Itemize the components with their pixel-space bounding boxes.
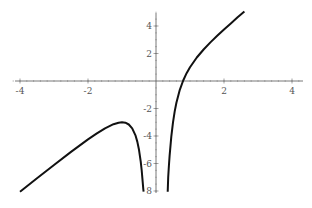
y-tick-label: -6 (143, 159, 152, 169)
curves (20, 12, 244, 192)
function-plot: -4-224 42-2-4-68 (0, 0, 312, 208)
y-tick-label: -2 (143, 104, 152, 114)
x-tick-label: -4 (16, 86, 25, 96)
y-tick-label: 2 (146, 49, 152, 59)
x-tick-label: -2 (84, 86, 93, 96)
y-tick-label: -4 (143, 131, 152, 141)
left-branch-curve (20, 122, 144, 192)
x-tick-label: 4 (289, 86, 295, 96)
right-branch-curve (168, 12, 245, 192)
y-tick-label: 4 (146, 21, 152, 31)
x-tick-label: 2 (221, 86, 227, 96)
y-tick-label: 8 (146, 186, 152, 196)
